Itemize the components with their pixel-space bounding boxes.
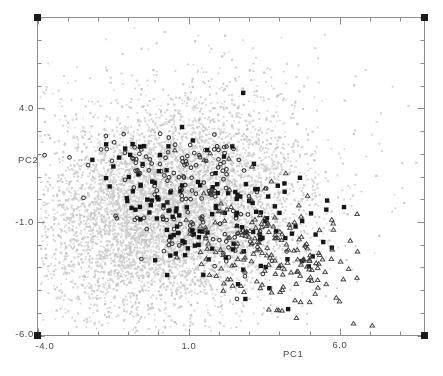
- x-axis-tick-label-6.0: 6.0: [324, 338, 356, 351]
- x-axis-tick-label--4.0: -4.0: [29, 339, 61, 352]
- y-axis-title: PC2: [18, 153, 38, 166]
- y-axis-tick-label-4.0: 4.0: [0, 101, 34, 114]
- pca-scatter-figure: 4.0 PC2 -1.0 -6.0 -4.0 1.0 6.0 PC1: [0, 0, 443, 376]
- y-axis-tick-label--1.0: -1.0: [0, 215, 34, 228]
- scatter-plot-canvas: [0, 0, 443, 376]
- x-axis-tick-label-1.0: 1.0: [173, 339, 205, 352]
- x-axis-title: PC1: [283, 347, 303, 360]
